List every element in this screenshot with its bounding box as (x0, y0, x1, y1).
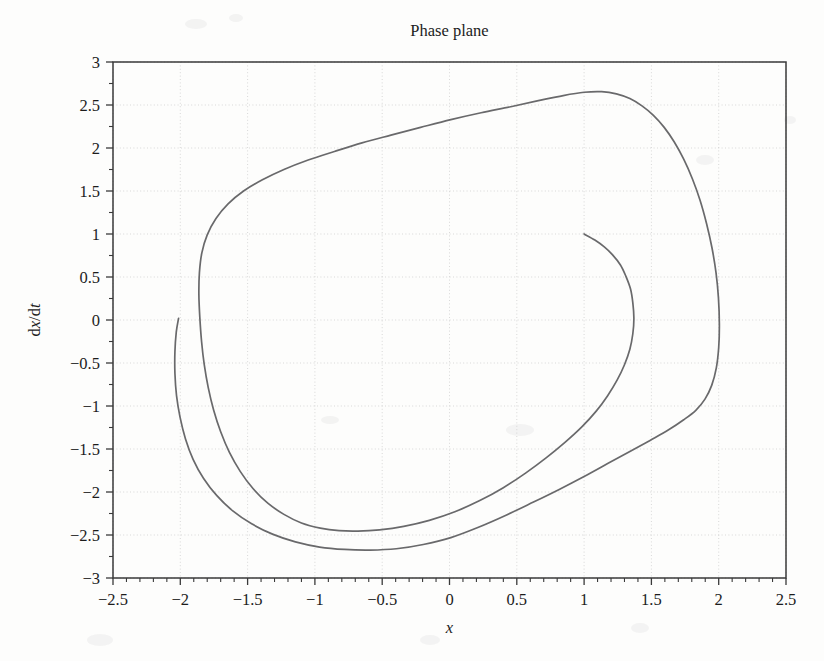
phase-plane-chart: Phase plane −2.5−2−1.5−1−0.500.511.522.5… (0, 0, 824, 661)
x-tick-label: 1 (580, 590, 588, 609)
x-axis-label: x (445, 618, 454, 637)
x-tick-label: −2 (172, 590, 190, 609)
y-tick-label: 2 (92, 139, 100, 158)
x-tick-label: 2.5 (776, 590, 797, 609)
x-tick-label: 1.5 (641, 590, 662, 609)
y-axis-label: dx/dt (25, 303, 44, 336)
y-tick-label: 1.5 (79, 182, 100, 201)
y-tick-label: −2.5 (70, 526, 100, 545)
figure-canvas: Phase plane −2.5−2−1.5−1−0.500.511.522.5… (0, 0, 824, 661)
y-tick-label: 2.5 (79, 96, 100, 115)
y-tick-label: 1 (92, 225, 100, 244)
y-tick-label: 3 (92, 53, 100, 72)
y-tick-label: −2 (82, 483, 100, 502)
x-tick-label: −1.5 (233, 590, 263, 609)
figure-background (0, 0, 824, 661)
x-tick-label: 0 (445, 590, 453, 609)
y-tick-label: −0.5 (70, 354, 100, 373)
x-tick-label: 0.5 (506, 590, 527, 609)
x-tick-label: −1 (306, 590, 324, 609)
y-tick-label: 0.5 (79, 268, 100, 287)
y-tick-label: −3 (82, 569, 100, 588)
x-tick-label: 2 (715, 590, 723, 609)
x-tick-label: −0.5 (367, 590, 397, 609)
y-tick-label: −1.5 (70, 440, 100, 459)
y-tick-label: −1 (82, 397, 100, 416)
y-tick-label: 0 (92, 311, 100, 330)
x-tick-label: −2.5 (98, 590, 128, 609)
chart-title: Phase plane (410, 21, 488, 40)
